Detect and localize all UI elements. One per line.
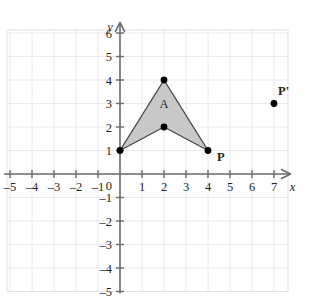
x-tick-label: –4: [25, 180, 39, 194]
x-tick-label: 7: [271, 180, 277, 194]
x-axis-name-label: x: [289, 180, 296, 194]
x-tick-label: 2: [161, 180, 167, 194]
point-labels: PP': [217, 84, 289, 164]
y-tick-label: –4: [99, 262, 113, 276]
x-tick-label: –3: [47, 180, 61, 194]
y-tick-label: 4: [106, 74, 113, 88]
x-tick-label: –2: [69, 180, 83, 194]
y-axis-name-label: y: [105, 20, 113, 34]
x-tick-label: 1: [139, 180, 145, 194]
point-marker-p-prime: [271, 100, 278, 107]
y-tick-label: –2: [99, 215, 113, 229]
axis-name-labels: xy: [105, 20, 296, 194]
vertex-marker: [161, 77, 168, 84]
y-tick-label: –1: [99, 191, 113, 205]
x-tick-label: 6: [249, 180, 255, 194]
axes: [4, 22, 291, 293]
vertex-marker: [161, 124, 168, 131]
point-marker-p: [205, 147, 212, 154]
grid-outer-border: [7, 30, 288, 292]
y-tick-label: 5: [106, 50, 112, 64]
polygon-label-a: A: [159, 97, 168, 111]
axis-tick-labels: –5–4–3–2–11234567654321–1–2–3–4–50: [3, 27, 277, 300]
y-tick-label: –5: [99, 285, 113, 299]
point-label-p-prime: P': [278, 84, 289, 98]
y-tick-label: –3: [99, 238, 113, 252]
grid-lines: [7, 30, 288, 292]
coordinate-plane-figure: –5–4–3–2–11234567654321–1–2–3–4–50 A PP'…: [0, 0, 312, 303]
vertex-marker: [117, 147, 124, 154]
y-tick-label: 1: [106, 144, 112, 158]
x-tick-label: 4: [205, 180, 212, 194]
x-tick-label: 3: [183, 180, 189, 194]
x-tick-label: 5: [227, 180, 233, 194]
graph-canvas: –5–4–3–2–11234567654321–1–2–3–4–50 A PP'…: [0, 0, 312, 303]
y-tick-label: 2: [106, 121, 112, 135]
grid-border: [7, 30, 288, 292]
y-tick-label: 3: [106, 97, 112, 111]
point-label-p: P: [217, 150, 225, 164]
origin-label: 0: [106, 179, 112, 193]
x-tick-label: –5: [3, 180, 17, 194]
